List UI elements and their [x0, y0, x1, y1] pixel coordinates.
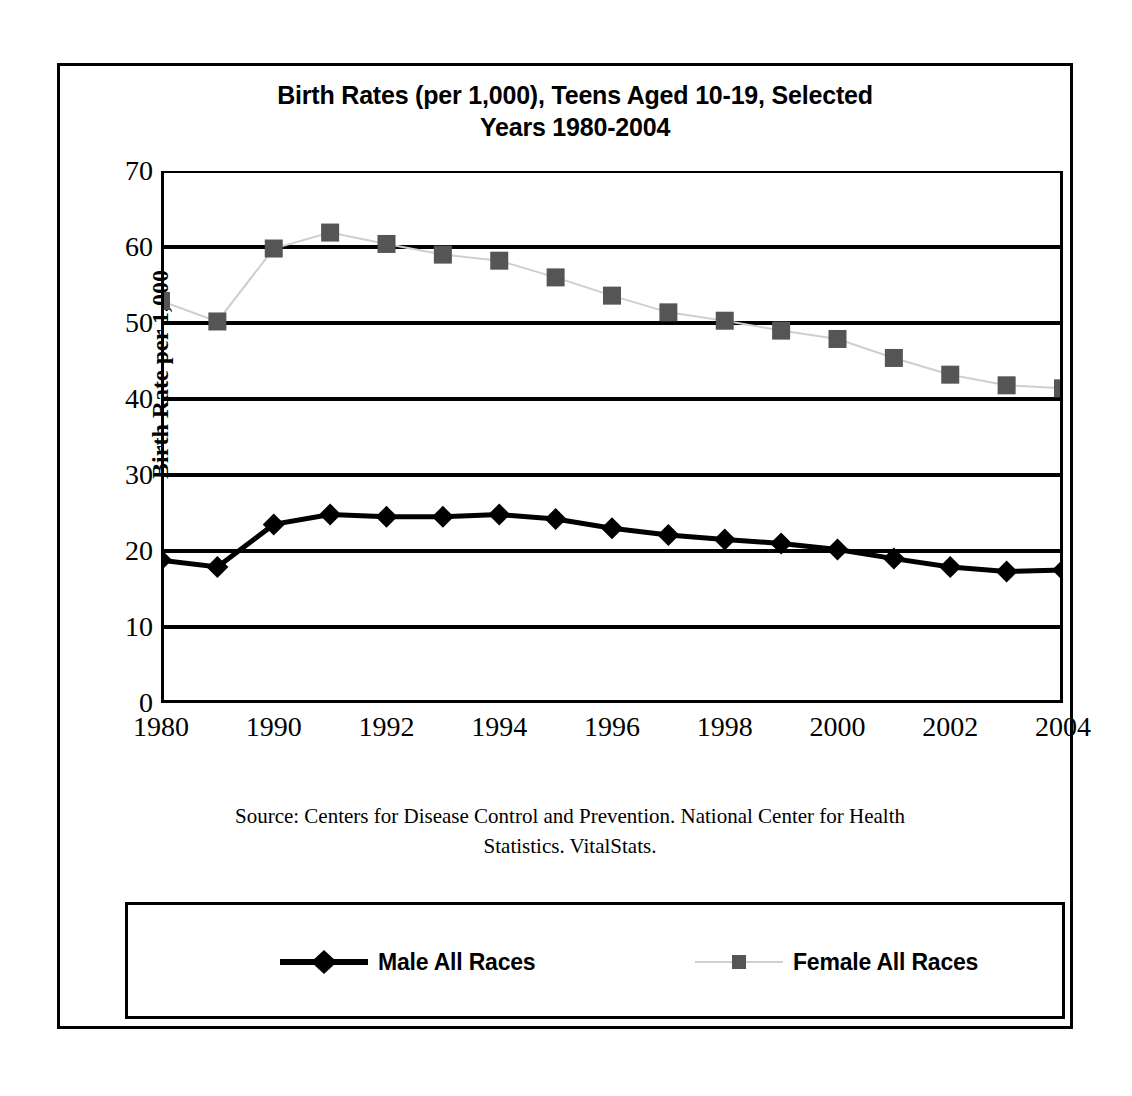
x-tick-label-1980: 1980	[101, 711, 221, 743]
data-point-female-2000	[829, 330, 847, 348]
legend-label-female: Female All Races	[793, 949, 978, 976]
data-point-female-1997	[659, 303, 677, 321]
data-point-female-1993	[434, 246, 452, 264]
figure-frame: Birth Rates (per 1,000), Teens Aged 10-1…	[57, 63, 1073, 1029]
data-point-female-1999	[772, 322, 790, 340]
legend-label-male: Male All Races	[378, 949, 535, 976]
data-point-female-1994	[490, 252, 508, 270]
data-point-female-1996	[603, 287, 621, 305]
chart-title-line-2: Years 1980-2004	[170, 111, 980, 143]
legend-box: Male All Races Female All Races	[125, 902, 1065, 1019]
y-tick-label-70: 70	[103, 157, 153, 185]
legend-entry-male: Male All Races	[278, 945, 535, 979]
data-point-female-2001	[885, 349, 903, 367]
data-point-male-1991	[319, 504, 341, 526]
y-tick-label-60: 60	[103, 233, 153, 261]
y-tick-label-20: 20	[103, 537, 153, 565]
data-point-male-2003	[996, 561, 1018, 583]
diamond-marker-icon	[278, 949, 370, 975]
line-chart-svg	[161, 171, 1063, 703]
data-point-female-1991	[321, 224, 339, 242]
data-point-male-1997	[657, 524, 679, 546]
y-tick-label-10: 10	[103, 613, 153, 641]
data-point-male-1995	[545, 508, 567, 530]
x-tick-label-2004: 2004	[1003, 711, 1123, 743]
data-point-female-1998	[716, 312, 734, 330]
x-tick-label-1996: 1996	[552, 711, 672, 743]
data-point-female-1990	[265, 240, 283, 258]
source-note: Source: Centers for Disease Control and …	[155, 801, 985, 861]
data-point-female-1985	[208, 312, 226, 330]
x-axis-tick-labels: 198019901992199419961998200020022004	[161, 711, 1063, 751]
data-point-male-2002	[939, 556, 961, 578]
x-tick-label-1990: 1990	[214, 711, 334, 743]
data-point-male-1993	[432, 506, 454, 528]
y-tick-label-30: 30	[103, 461, 153, 489]
x-tick-label-2002: 2002	[890, 711, 1010, 743]
y-axis-tick-labels: 706050403020100	[99, 171, 153, 703]
x-tick-label-1998: 1998	[665, 711, 785, 743]
data-point-male-1996	[601, 517, 623, 539]
chart-title-line-1: Birth Rates (per 1,000), Teens Aged 10-1…	[170, 79, 980, 111]
square-marker-icon	[693, 949, 785, 975]
series-line-female	[161, 233, 1063, 389]
y-tick-label-40: 40	[103, 385, 153, 413]
data-point-male-1992	[376, 506, 398, 528]
x-tick-label-1994: 1994	[439, 711, 559, 743]
y-tick-label-50: 50	[103, 309, 153, 337]
data-point-male-2000	[827, 538, 849, 560]
data-point-male-1998	[714, 529, 736, 551]
source-note-line-2: Statistics. VitalStats.	[155, 831, 985, 861]
x-tick-label-1992: 1992	[327, 711, 447, 743]
data-point-female-1995	[547, 268, 565, 286]
legend-entry-female: Female All Races	[693, 945, 978, 979]
source-note-line-1: Source: Centers for Disease Control and …	[155, 801, 985, 831]
data-point-female-1992	[378, 235, 396, 253]
plot-area	[161, 171, 1063, 703]
data-point-female-2002	[941, 366, 959, 384]
data-point-male-1994	[488, 504, 510, 526]
chart-title: Birth Rates (per 1,000), Teens Aged 10-1…	[170, 79, 980, 143]
data-point-female-2003	[998, 376, 1016, 394]
x-tick-label-2000: 2000	[778, 711, 898, 743]
